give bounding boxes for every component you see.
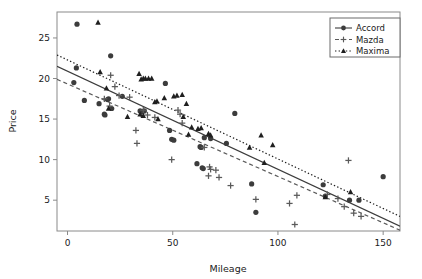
data-point-circle <box>347 198 352 203</box>
data-point-circle <box>74 65 79 70</box>
x-axis-ticks: 050100150 <box>65 231 392 248</box>
data-point-triangle <box>189 124 195 129</box>
data-point-plus <box>286 200 292 206</box>
legend-label-mazda: Mazda <box>356 35 384 45</box>
data-point-plus <box>228 182 234 188</box>
data-point-plus <box>216 174 222 180</box>
data-point-circle <box>381 174 386 179</box>
data-point-circle <box>96 101 101 106</box>
data-point-circle <box>82 98 87 103</box>
data-point-circle <box>120 94 125 99</box>
data-point-triangle <box>348 189 354 194</box>
series-mazda <box>101 72 364 227</box>
data-point-plus <box>292 221 298 227</box>
data-point-plus <box>351 210 357 216</box>
y-tick-label: 10 <box>39 155 51 165</box>
x-tick-label: 100 <box>269 238 286 248</box>
y-axis-ticks: 510152025 <box>39 33 57 205</box>
data-point-triangle <box>95 20 101 25</box>
data-point-triangle <box>186 131 192 136</box>
chart-canvas: 050100150 510152025 Mileage Price Accord… <box>0 0 422 279</box>
data-point-triangle <box>179 92 185 97</box>
data-point-plus <box>133 127 139 133</box>
y-tick-label: 20 <box>39 74 51 84</box>
data-point-circle <box>232 111 237 116</box>
data-point-plus <box>213 167 219 173</box>
data-point-triangle <box>97 69 103 74</box>
scatter-plot-figure: 050100150 510152025 Mileage Price Accord… <box>0 0 422 279</box>
data-point-plus <box>358 213 364 219</box>
y-tick-label: 5 <box>44 195 50 205</box>
legend-label-maxima: Maxima <box>356 46 389 56</box>
data-point-circle <box>224 141 229 146</box>
data-point-circle <box>249 181 254 186</box>
data-point-triangle <box>247 144 253 149</box>
data-point-circle <box>142 108 147 113</box>
data-point-plus <box>294 192 300 198</box>
series-maxima <box>95 20 353 200</box>
data-point-circle <box>321 182 326 187</box>
data-point-plus <box>205 173 211 179</box>
data-point-circle <box>74 22 79 27</box>
data-point-circle <box>167 128 172 133</box>
data-point-circle <box>71 80 76 85</box>
data-point-triangle <box>258 132 264 137</box>
data-point-circle <box>102 112 107 117</box>
data-point-plus <box>345 157 351 163</box>
x-tick-label: 0 <box>65 238 71 248</box>
data-point-circle <box>108 53 113 58</box>
x-tick-label: 150 <box>375 238 392 248</box>
data-point-circle <box>253 210 258 215</box>
data-point-triangle <box>198 125 204 130</box>
x-axis-label: Mileage <box>209 263 246 274</box>
data-point-triangle <box>162 95 168 100</box>
data-point-plus <box>112 84 118 90</box>
x-tick-label: 50 <box>167 238 179 248</box>
data-point-triangle <box>125 114 131 119</box>
data-point-circle <box>163 81 168 86</box>
data-point-plus <box>134 140 140 146</box>
y-tick-label: 15 <box>39 114 50 124</box>
data-point-plus <box>108 72 114 78</box>
data-point-circle <box>341 26 346 31</box>
fit-line-maxima <box>57 55 400 216</box>
data-point-triangle <box>174 93 180 98</box>
data-point-circle <box>201 166 206 171</box>
data-point-triangle <box>184 101 190 106</box>
data-point-circle <box>356 198 361 203</box>
legend[interactable]: AccordMazdaMaxima <box>330 18 400 57</box>
data-point-circle <box>194 161 199 166</box>
legend-label-accord: Accord <box>356 23 385 33</box>
data-point-triangle <box>136 71 142 76</box>
y-axis-label: Price <box>7 109 18 132</box>
y-tick-label: 25 <box>39 33 50 43</box>
data-point-triangle <box>270 142 276 147</box>
data-point-plus <box>253 196 259 202</box>
data-point-plus <box>169 157 175 163</box>
data-point-circle <box>171 138 176 143</box>
data-point-circle <box>105 97 110 102</box>
